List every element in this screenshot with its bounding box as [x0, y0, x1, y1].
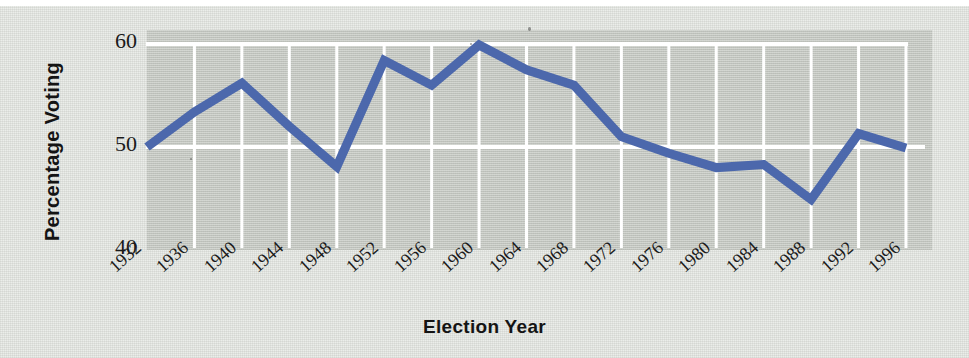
x-tick-label-1960: 1960 [437, 237, 478, 277]
x-tick-label-1952: 1952 [342, 237, 383, 277]
x-axis-title: Election Year [0, 316, 969, 338]
y-axis-title: Percentage Voting [41, 32, 64, 272]
x-tick-label-1968: 1968 [532, 237, 573, 277]
x-tick-label-1976: 1976 [627, 237, 668, 277]
x-axis-tick-labels: 1932193619401944194819521956196019641968… [0, 0, 969, 358]
x-tick-label-1964: 1964 [484, 237, 525, 277]
x-tick-label-1996: 1996 [864, 237, 905, 277]
scan-speck [470, 43, 472, 45]
chart-figure: 605040 193219361940194419481952195619601… [0, 0, 969, 358]
x-tick-label-1988: 1988 [769, 237, 810, 277]
x-tick-label-1944: 1944 [247, 237, 288, 277]
x-tick-label-1992: 1992 [817, 237, 858, 277]
x-tick-label-1956: 1956 [390, 237, 431, 277]
scan-edge-white-band [0, 0, 969, 6]
x-tick-label-1948: 1948 [295, 237, 336, 277]
x-tick-label-1972: 1972 [579, 237, 620, 277]
x-tick-label-1984: 1984 [722, 237, 763, 277]
x-tick-label-1932: 1932 [105, 237, 146, 277]
scan-speck [528, 27, 531, 31]
x-tick-label-1980: 1980 [674, 237, 715, 277]
scan-speck [190, 158, 192, 160]
x-tick-label-1940: 1940 [200, 237, 241, 277]
x-tick-label-1936: 1936 [152, 237, 193, 277]
